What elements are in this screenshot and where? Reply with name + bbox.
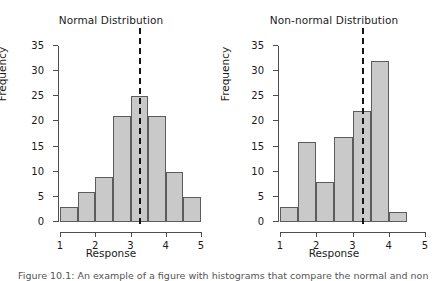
- y-tick: 15: [273, 146, 278, 147]
- y-tick: 30: [53, 70, 58, 71]
- x-axis-line-normal: 12345: [60, 232, 201, 233]
- y-tick-label: 20: [31, 115, 44, 126]
- x-tick-label: 5: [422, 240, 428, 251]
- mean-line-nonnormal: [362, 28, 364, 224]
- y-tick-label: 30: [31, 65, 44, 76]
- x-tick: 3: [353, 232, 354, 237]
- x-axis-title-nonnormal: Response: [223, 247, 445, 259]
- x-tick: 5: [201, 232, 202, 237]
- x-tick-label: 2: [313, 240, 319, 251]
- mean-line-normal: [139, 28, 141, 224]
- x-tick: 2: [316, 232, 317, 237]
- x-tick: 3: [131, 232, 132, 237]
- histogram-bar: [95, 177, 113, 222]
- y-tick: 0: [53, 221, 58, 222]
- y-tick-label: 30: [251, 65, 264, 76]
- y-tick: 25: [53, 95, 58, 96]
- x-tick: 4: [166, 232, 167, 237]
- histogram-bar: [371, 61, 389, 222]
- x-tick-label: 5: [198, 240, 204, 251]
- y-tick: 25: [273, 95, 278, 96]
- x-tick: 4: [389, 232, 390, 237]
- y-tick: 10: [273, 171, 278, 172]
- y-tick: 5: [273, 196, 278, 197]
- histogram-bar: [166, 172, 184, 222]
- y-tick-label: 10: [31, 165, 44, 176]
- x-tick-label: 4: [163, 240, 169, 251]
- y-tick-label: 35: [31, 40, 44, 51]
- x-tick-label: 4: [386, 240, 392, 251]
- histogram-bar: [60, 207, 78, 222]
- chart-title-nonnormal: Non-normal Distribution: [223, 14, 445, 26]
- y-axis-line-nonnormal: [278, 46, 279, 222]
- figure-caption: Figure 10.1: An example of a figure with…: [18, 270, 428, 281]
- x-tick: 5: [425, 232, 426, 237]
- y-tick-label: 20: [251, 115, 264, 126]
- y-tick-label: 15: [31, 140, 44, 151]
- y-axis-line-normal: [58, 46, 59, 222]
- histogram-bar: [183, 197, 201, 222]
- y-tick: 35: [53, 45, 58, 46]
- histogram-bar: [280, 207, 298, 222]
- x-axis-title-normal: Response: [0, 247, 222, 259]
- y-tick: 0: [273, 221, 278, 222]
- plot-area-nonnormal: 05101520253035 12345: [280, 46, 425, 222]
- histogram-bar: [148, 116, 166, 222]
- x-tick: 2: [95, 232, 96, 237]
- x-tick-label: 2: [92, 240, 98, 251]
- histogram-bar: [334, 137, 352, 222]
- y-tick: 10: [53, 171, 58, 172]
- x-tick-label: 3: [349, 240, 355, 251]
- histogram-bar: [113, 116, 131, 222]
- y-tick: 20: [273, 120, 278, 121]
- y-tick-label: 5: [258, 190, 264, 201]
- histogram-bar: [389, 212, 407, 222]
- y-tick: 5: [53, 196, 58, 197]
- plot-area-normal: 05101520253035 12345: [60, 46, 201, 222]
- y-axis-title-nonnormal: Frequency: [219, 14, 231, 134]
- y-tick: 35: [273, 45, 278, 46]
- y-tick: 20: [53, 120, 58, 121]
- x-tick-label: 1: [57, 240, 63, 251]
- x-tick-label: 1: [277, 240, 283, 251]
- y-tick-label: 25: [31, 90, 44, 101]
- histogram-bar: [298, 142, 316, 222]
- x-axis-line-nonnormal: 12345: [280, 232, 425, 233]
- histogram-bar: [316, 182, 334, 222]
- y-tick: 15: [53, 146, 58, 147]
- y-tick-label: 35: [251, 40, 264, 51]
- chart-title-normal: Normal Distribution: [0, 14, 222, 26]
- y-tick-label: 15: [251, 140, 264, 151]
- x-tick: 1: [280, 232, 281, 237]
- bar-group-nonnormal: [280, 46, 425, 222]
- y-tick-label: 10: [251, 165, 264, 176]
- chart-panel-normal: Normal Distribution Frequency Response 0…: [0, 0, 222, 262]
- chart-panel-nonnormal: Non-normal Distribution Frequency Respon…: [223, 0, 445, 262]
- x-tick-label: 3: [127, 240, 133, 251]
- y-tick-label: 0: [38, 216, 44, 227]
- y-tick: 30: [273, 70, 278, 71]
- y-tick-label: 0: [258, 216, 264, 227]
- y-axis-title-normal: Frequency: [0, 14, 8, 134]
- bar-group-normal: [60, 46, 201, 222]
- y-tick-label: 5: [38, 190, 44, 201]
- y-tick-label: 25: [251, 90, 264, 101]
- histogram-bar: [78, 192, 96, 222]
- x-tick: 1: [60, 232, 61, 237]
